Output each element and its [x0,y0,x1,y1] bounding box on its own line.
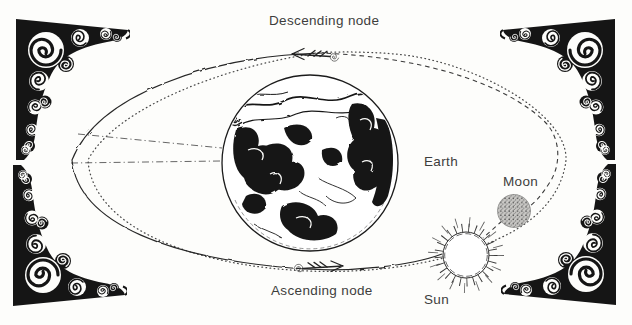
filigree-corner-top-left-icon [14,17,130,161]
descending-node-label: Descending node [269,13,379,28]
ascending-node-label: Ascending node [271,283,373,298]
filigree-corner-bottom-left-icon [11,164,127,308]
filigree-corner-top-right-icon [500,17,618,161]
earth-globe [222,75,398,251]
earth-label: Earth [424,154,458,169]
moon-label: Moon [503,174,538,189]
illustration-page: Descending node Ascending node Earth Moo… [0,0,632,325]
node-line-lower [71,161,221,163]
sun [433,222,499,288]
sun-label: Sun [424,292,449,307]
ascending-node-arrow-icon [294,261,343,273]
descending-node-arrow-icon [292,49,339,63]
